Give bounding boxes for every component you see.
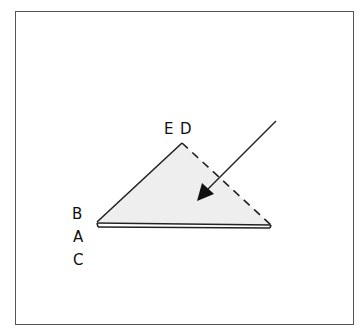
triangle-flap	[97, 143, 271, 225]
fold-diagram	[0, 0, 362, 331]
label-a: A	[73, 230, 83, 245]
label-b: B	[72, 207, 82, 222]
label-c: C	[73, 253, 83, 268]
label-d: D	[180, 122, 192, 137]
fold-arrow-icon	[197, 121, 276, 201]
base-edge-bottom	[98, 227, 270, 228]
label-e: E	[164, 122, 173, 137]
